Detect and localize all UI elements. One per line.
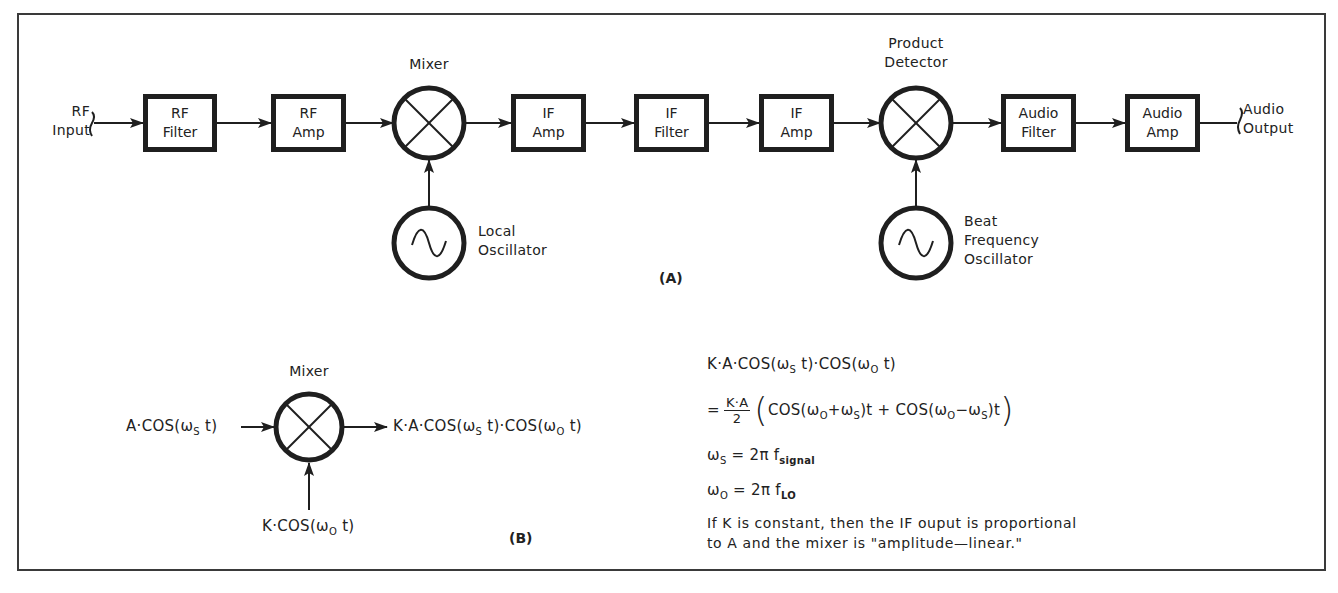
caption-b: (B): [509, 530, 532, 546]
local-oscillator-label: Local Oscillator: [478, 222, 578, 260]
product-detector-label: Product Detector: [870, 34, 962, 72]
block-if-filter: IFFilter: [634, 94, 709, 152]
lo-signal-expr: K·COS(ωO t): [262, 517, 355, 537]
block-rf-filter: RFFilter: [143, 94, 217, 152]
rf-input-label: RF Input: [40, 102, 90, 140]
block-if-amp-1: IFAmp: [511, 94, 586, 152]
mixer-icon: [394, 88, 464, 158]
bfo-icon: [881, 208, 951, 278]
mixer-b-label: Mixer: [284, 362, 334, 381]
local-oscillator-icon: [394, 208, 464, 278]
bfo-label: Beat Frequency Oscillator: [964, 212, 1064, 269]
input-signal-expr: A·COS(ωS t): [126, 417, 217, 437]
block-rf-amp: RFAmp: [271, 94, 346, 152]
output-brace-icon: [1238, 108, 1242, 134]
output-signal-expr: K·A·COS(ωS t)·COS(ωO t): [393, 417, 582, 437]
equation-expansion: =K·A2(COS(ωO+ωS)t + COS(ωO−ωS)t): [707, 390, 1014, 430]
diagram-wiring: [0, 0, 1338, 593]
equation-product: K·A·COS(ωS t)·COS(ωO t): [707, 355, 896, 375]
block-if-amp-2: IFAmp: [759, 94, 834, 152]
product-detector-icon: [881, 88, 951, 158]
equation-omega-o: ωO = 2π fLO: [707, 481, 796, 501]
block-audio-amp: AudioAmp: [1125, 94, 1200, 152]
note-text: If K is constant, then the IF ouput is p…: [707, 513, 1077, 553]
mixer-label: Mixer: [394, 55, 464, 74]
mixer-b-icon: [276, 394, 342, 460]
input-brace-icon: [90, 112, 94, 136]
caption-a: (A): [659, 270, 683, 286]
equation-omega-s: ωS = 2π fsignal: [707, 446, 815, 466]
block-audio-filter: AudioFilter: [1001, 94, 1076, 152]
audio-output-label: Audio Output: [1243, 100, 1313, 138]
